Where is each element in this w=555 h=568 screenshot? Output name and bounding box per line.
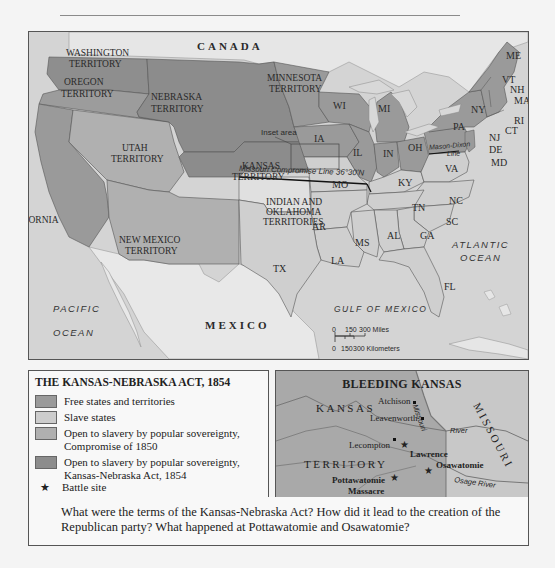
label-state-il: IL [353,147,362,158]
label-state-nj: NJ [489,132,500,143]
label-mason-dixon-line: Line [447,148,460,159]
inset-title: BLEEDING KANSAS [276,377,528,392]
legend-swatch-free [35,395,57,408]
label-state-mi: MI [378,103,390,114]
label-state-al: AL [387,230,400,241]
label-minnesota: MINNESOTA [267,73,322,84]
label-state-fl: FL [444,281,456,292]
legend-item-kansas-nebraska: Open to slavery by popular sovereignty, … [35,456,240,481]
label-state-tn: TN [412,202,425,213]
label-utah-territory: TERRITORY [111,154,164,165]
map-legend: THE KANSAS-NEBRASKA ACT, 1854 Free state… [28,370,269,498]
label-washington: WASHINGTON [66,48,129,59]
label-state-mo: MO [332,179,348,190]
label-state-md: MD [491,157,507,168]
inset-place-pottawatomie: Pottawatomie [332,475,385,485]
label-state-tx: TX [273,263,286,274]
label-pacific: PACIFIC [53,303,100,314]
inset-place-leavenworth: Leavenworth [370,413,417,423]
scale-km-300: 300 Kilometers [353,343,400,354]
label-oregon-territory: TERRITORY [61,89,114,100]
scale-miles-0: 0 [332,324,336,335]
scale-km-0: 0 [332,343,336,354]
legend-label-line-2: Kansas-Nebraska Act, 1854 [64,469,187,481]
scale-miles-150: 150 [345,324,357,335]
label-state-la: LA [331,255,344,266]
legend-item-battle-site: ★ Battle site [35,481,106,494]
label-nebraska: NEBRASKA [151,92,202,103]
legend-swatch-compromise-1850 [35,427,57,440]
legend-label-line-1: Open to slavery by popular sovereignty, [64,456,240,468]
label-state-wi: WI [333,100,346,111]
label-oregon: OREGON [64,77,104,88]
inset-label-kansas: KANSAS [316,403,375,413]
inset-place-osawatomie: Osawatomie [436,460,484,470]
inset-place-massacre: Massacre [348,486,384,496]
label-state-de: DE [489,144,502,155]
label-state-nc: NC [449,195,463,206]
label-state-ma: MA [514,95,529,106]
legend-item-slave: Slave states [35,411,116,424]
scale-miles-300: 300 Miles [359,324,389,335]
label-state-pa: PA [453,121,465,132]
header-rule [60,15,460,16]
bleeding-kansas-inset: BLEEDING KANSAS KANSAS TERRITORY MISSOUR… [275,370,529,498]
inset-battle-star-lawrence: ★ [400,440,409,450]
label-atlantic-ocean: OCEAN [460,252,501,263]
legend-label-line-2: Compromise of 1850 [64,440,158,452]
label-mexico: MEXICO [205,320,269,331]
review-question: What were the terms of the Kansas-Nebras… [61,505,521,535]
label-gulf-of-mexico: GULF OF MEXICO [334,304,427,315]
review-question-box: What were the terms of the Kansas-Nebras… [28,497,529,546]
legend-swatch-slave [35,411,57,424]
inset-battle-star-pottawatomie: ★ [390,473,399,483]
inset-label-territory: TERRITORY [304,459,387,469]
legend-label-kansas-nebraska: Open to slavery by popular sovereignty, … [64,456,240,481]
legend-swatch-kansas-nebraska [35,456,57,469]
label-state-oh: OH [408,142,422,153]
label-state-ky: KY [398,177,412,188]
legend-label-compromise-1850: Open to slavery by popular sovereignty, … [64,427,240,452]
label-state-ar: AR [312,221,326,232]
legend-label-free: Free states and territories [64,395,175,408]
label-state-ny: NY [471,104,485,115]
battle-star-icon: ★ [35,481,55,494]
inset-battle-star-osawatomie: ★ [424,466,433,476]
label-california: CALIFORNIA [28,215,59,226]
label-canada: CANADA [197,41,263,52]
label-washington-territory: TERRITORY [69,59,122,70]
label-state-ga: GA [420,230,434,241]
label-state-sc: SC [446,216,458,227]
us-map-1854: CANADA MEXICO PACIFIC OCEAN ATLANTIC OCE… [28,31,529,360]
label-pacific-ocean: OCEAN [53,327,94,338]
label-state-in: IN [383,148,394,159]
inset-river-label: River [450,426,468,436]
label-new-mexico-territory: TERRITORY [125,246,178,257]
label-minnesota-territory: TERRITORY [269,84,322,95]
inset-place-lecompton: Lecompton [349,440,390,450]
label-new-mexico: NEW MEXICO [119,235,180,246]
inset-place-lawrence: Lawrence [410,449,448,459]
label-state-ms: MS [355,237,369,248]
label-atlantic: ATLANTIC [452,239,509,250]
legend-label-battle-site: Battle site [62,481,106,494]
scale-km-150: 150 [341,343,353,354]
legend-label-slave: Slave states [64,411,116,424]
label-state-me: ME [506,50,521,61]
label-state-ia: IA [314,133,325,144]
legend-item-compromise-1850: Open to slavery by popular sovereignty, … [35,427,240,452]
legend-title: THE KANSAS-NEBRASKA ACT, 1854 [35,376,230,388]
label-utah: UTAH [122,143,148,154]
legend-item-free: Free states and territories [35,395,175,408]
label-state-ct: CT [505,125,518,136]
label-nebraska-territory: TERRITORY [151,104,204,115]
label-inset-area: Inset area [261,127,297,138]
legend-label-line-1: Open to slavery by popular sovereignty, [64,427,240,439]
label-state-va: VA [445,163,458,174]
inset-place-atchison: Atchison [378,396,411,406]
label-state-nh: NH [510,84,524,95]
